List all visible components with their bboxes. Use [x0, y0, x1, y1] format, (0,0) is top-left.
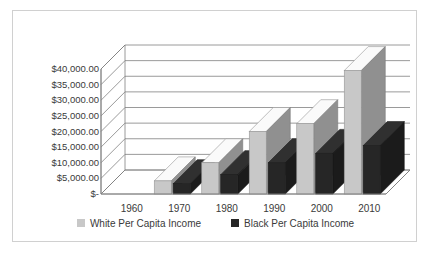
chart-container: $-$5,000.00$10,000.00$15,000.00$20,000.0…: [12, 10, 417, 242]
legend-item-white[interactable]: White Per Capita Income: [77, 218, 201, 229]
x-axis-labels: 196019701980199020002010: [13, 11, 418, 243]
chart-legend: White Per Capita Income Black Per Capita…: [13, 213, 418, 233]
legend-item-black[interactable]: Black Per Capita Income: [231, 218, 354, 229]
legend-label-white: White Per Capita Income: [90, 218, 201, 229]
legend-label-black: Black Per Capita Income: [244, 218, 354, 229]
legend-swatch-black: [231, 219, 239, 227]
legend-swatch-white: [77, 219, 85, 227]
